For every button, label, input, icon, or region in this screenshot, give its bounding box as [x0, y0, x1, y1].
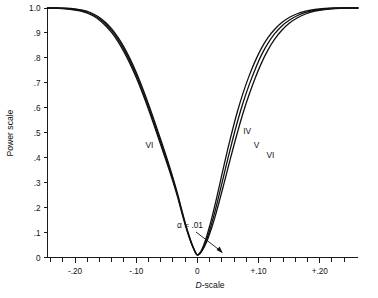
- x-axis-tick-labels: -.20-.100+.10+.20: [68, 267, 328, 276]
- power-curve-figure: 0.1.2.3.4.5.6.7.8.91.0 -.20-.100+.10+.20…: [0, 0, 378, 298]
- y-tick-label: .8: [34, 54, 41, 63]
- y-axis-tick-labels: 0.1.2.3.4.5.6.7.8.91.0: [29, 4, 41, 263]
- alpha-annotation: α = .01: [177, 220, 223, 253]
- y-tick-label: .7: [34, 79, 41, 88]
- alpha-annotation-label: α = .01: [177, 220, 203, 230]
- right-curve-label-v: V: [254, 140, 260, 150]
- right-curve-label-vi: VI: [267, 150, 275, 160]
- power-curve-iv: [48, 8, 359, 255]
- x-tick-label: -.10: [129, 267, 144, 276]
- x-tick-label: +.10: [250, 267, 267, 276]
- y-tick-label: .4: [34, 154, 41, 163]
- y-tick-label: 0: [36, 254, 41, 263]
- y-axis-title: Power scale: [5, 109, 15, 156]
- x-tick-label: -.20: [68, 267, 83, 276]
- x-axis-title: D-scale: [195, 280, 224, 290]
- left-branch-label: VI: [145, 140, 153, 150]
- x-axis-ticks: [51, 258, 345, 264]
- y-tick-label: .6: [34, 104, 41, 113]
- y-tick-label: .1: [34, 229, 41, 238]
- y-tick-label: .3: [34, 179, 41, 188]
- y-axis-ticks: [44, 8, 48, 258]
- chart-canvas: 0.1.2.3.4.5.6.7.8.91.0 -.20-.100+.10+.20…: [0, 0, 378, 298]
- right-curve-label-iv: IV: [243, 126, 251, 136]
- y-tick-label: .2: [34, 204, 41, 213]
- x-tick-label: 0: [195, 267, 200, 276]
- alpha-annotation-arrowhead: [217, 247, 223, 254]
- y-tick-label: 1.0: [29, 4, 41, 13]
- power-curve-v: [48, 8, 359, 255]
- y-tick-label: .5: [34, 129, 41, 138]
- power-curve-vi: [48, 8, 359, 255]
- power-curves: [48, 8, 359, 255]
- x-tick-label: +.20: [312, 267, 329, 276]
- y-tick-label: .9: [34, 29, 41, 38]
